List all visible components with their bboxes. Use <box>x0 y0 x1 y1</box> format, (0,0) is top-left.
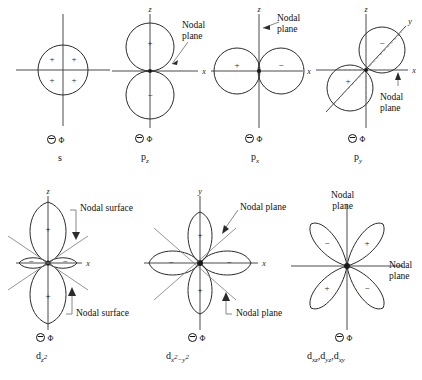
sign-plus-upper: + <box>197 230 202 240</box>
legend-pz: Φ <box>135 134 153 144</box>
circle-minus-icon <box>335 333 344 342</box>
panel-dx2y2-orbital: + + − − y x Nodal plane Nodal plane Φ dx… <box>140 190 280 335</box>
axis-label-x: x <box>85 259 90 268</box>
px-orbital-diagram: + − z x <box>207 8 317 133</box>
label-dx2y2-sup-b: 2 <box>185 353 189 361</box>
label-dxy-main: ,d <box>331 350 339 361</box>
axis-label-x: x <box>411 66 416 75</box>
legend-dxz: Φ <box>335 333 353 343</box>
panel-px-orbital: + − z x Nodal plane Φ px <box>207 8 317 133</box>
sign-plus-q4: + <box>71 75 76 85</box>
sign-plus-upper: + <box>45 224 50 234</box>
axis-label-z: z <box>147 5 152 14</box>
sign-plus-left: + <box>234 60 239 70</box>
circle-minus-icon <box>348 134 357 143</box>
nodal-cone-lower-right <box>48 263 88 290</box>
legend-phi-py: Φ <box>360 135 366 144</box>
label-s-orbital: s <box>58 152 62 163</box>
circle-minus-icon <box>135 134 144 143</box>
annotation-nodal-plane-pz: Nodal plane <box>182 20 205 41</box>
sign-plus-q2: + <box>49 54 54 64</box>
sign-minus-right: − <box>226 257 231 267</box>
nodal-plane-arrowhead <box>395 72 401 80</box>
label-dx2y2-orbital: dx2−y2 <box>166 350 189 364</box>
annotation-nodal-plane-px: Nodal plane <box>277 13 300 34</box>
sign-plus-lower-left: + <box>324 283 329 293</box>
annotation-nodal-surface-bottom: Nodal surface <box>76 308 129 319</box>
label-s-text: s <box>58 152 62 163</box>
label-py-orbital: py <box>354 151 362 165</box>
legend-dx2y2: Φ <box>188 333 206 343</box>
circle-minus-icon <box>245 134 254 143</box>
axis-label-x: x <box>201 67 206 76</box>
axis-label-z: z <box>363 5 368 14</box>
circle-minus-icon <box>47 135 56 144</box>
label-px-sub: x <box>256 157 259 165</box>
legend-dz2: Φ <box>36 333 54 343</box>
sign-plus-lower: + <box>345 76 350 86</box>
sign-plus-q1: + <box>71 54 76 64</box>
panel-pz-orbital: + − z x Nodal plane Φ pz <box>110 8 215 133</box>
legend-s: Φ <box>47 135 65 145</box>
annotation-nodal-plane-horizontal: Nodal plane <box>389 260 412 281</box>
nucleus <box>257 69 261 73</box>
legend-phi-dz2: Φ <box>48 334 54 343</box>
axis-label-x: x <box>261 259 266 268</box>
sign-plus-upper: + <box>147 38 152 48</box>
label-pz-orbital: pz <box>141 151 149 165</box>
panel-s-orbital: + + + + Φ s <box>8 10 118 130</box>
nodal-cone-upper-right <box>48 236 88 263</box>
legend-py: Φ <box>348 134 366 144</box>
s-orbital-diagram: + + + + <box>8 10 118 130</box>
sign-plus-q3: + <box>49 75 54 85</box>
nodal-surface-arrowhead-bot <box>68 287 76 296</box>
legend-phi-s: Φ <box>59 136 65 145</box>
sign-minus-right: − <box>278 60 283 70</box>
legend-px: Φ <box>245 134 263 144</box>
panel-py-orbital: − + z x y Nodal plane Φ py <box>310 8 418 133</box>
axis-label-y: y <box>407 17 412 26</box>
legend-phi-dx2y2: Φ <box>200 334 206 343</box>
sign-plus-upper-right: + <box>364 238 369 248</box>
annotation-nodal-plane-py: Nodal plane <box>380 92 403 113</box>
sign-minus-left: − <box>168 257 173 267</box>
sign-minus-right: − <box>62 256 67 266</box>
nucleus <box>344 263 350 269</box>
annotation-nodal-plane-bottom: Nodal plane <box>236 308 282 319</box>
sign-plus-lower: + <box>45 291 50 301</box>
label-dz2-subsup: z2 <box>41 356 47 364</box>
axis-label-z: z <box>45 187 50 196</box>
label-dz2-sup: 2 <box>44 353 48 361</box>
annotation-nodal-surface-top: Nodal surface <box>80 203 133 214</box>
circle-minus-icon <box>188 333 197 342</box>
sign-minus-left: − <box>28 256 33 266</box>
label-pz-sub: z <box>146 157 149 165</box>
nodal-surface-arrowhead-top <box>72 232 80 240</box>
nodal-plane-arrowhead-top <box>222 225 229 234</box>
label-dxy-sub: xy <box>339 356 345 364</box>
nucleus <box>148 69 152 73</box>
sign-minus-lower: − <box>147 90 152 100</box>
circle-minus-icon <box>36 333 45 342</box>
label-dxz-orbital: dxz,dyz,dxy <box>307 350 345 364</box>
sign-minus-upper: − <box>379 38 384 48</box>
annotation-nodal-plane-vertical: Nodal plane <box>331 190 354 211</box>
sign-plus-lower: + <box>197 285 202 295</box>
nucleus <box>364 68 368 72</box>
sign-minus-lower-right: − <box>364 283 369 293</box>
annotation-nodal-plane-top: Nodal plane <box>240 202 286 213</box>
sign-minus-upper-left: − <box>324 238 329 248</box>
legend-phi-dxz: Φ <box>347 334 353 343</box>
panel-dxz-orbital: − + + − Nodal plane Nodal plane Φ dxz,dy… <box>285 190 422 335</box>
label-py-sub: y <box>359 157 362 165</box>
legend-phi-pz: Φ <box>147 135 153 144</box>
legend-phi-px: Φ <box>257 135 263 144</box>
py-orbital-diagram: − + z x y <box>310 8 418 133</box>
axis-label-z: z <box>256 5 261 14</box>
label-dx2y2-expr: x2−y2 <box>171 356 189 364</box>
label-px-orbital: px <box>251 151 259 165</box>
axis-label-y: y <box>197 187 202 196</box>
orbital-figure: + + + + Φ s + − z x Nodal plane Φ pz <box>0 0 422 380</box>
nucleus <box>197 260 203 266</box>
panel-dz2-orbital: + + − − z x Nodal surface Nodal surface … <box>2 190 142 335</box>
